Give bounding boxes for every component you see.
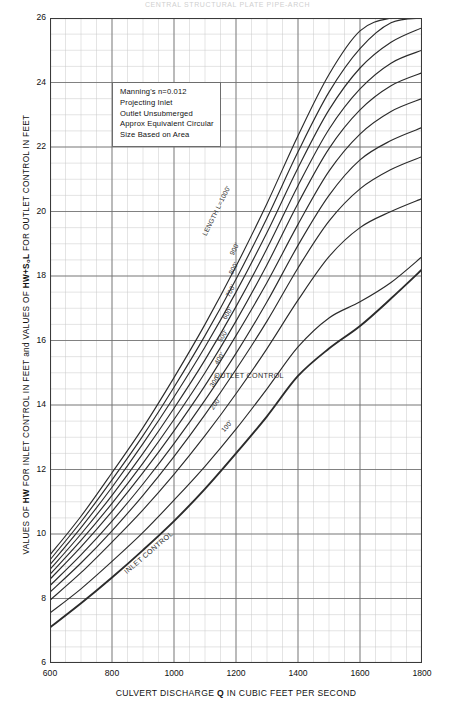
inlet-control-annotation: INLET CONTROL: [122, 529, 174, 576]
x-tick-label: 1400: [278, 669, 318, 678]
x-tick-label: 1800: [402, 669, 442, 678]
chart-canvas: CENTRAL STRUCTURAL PLATE PIPE-ARCH VALUE…: [0, 0, 455, 709]
x-tick-label: 800: [92, 669, 132, 678]
note-line: Projecting Inlet: [120, 98, 214, 109]
y-tick-label: 12: [22, 465, 46, 474]
plot-area: LENGTH L=1000'900'800'700'600'500'400'30…: [50, 18, 422, 663]
chart-notes-box: Manning's n=0.012Projecting InletOutlet …: [112, 82, 221, 147]
y-tick-label: 8: [22, 594, 46, 603]
chart-top-title: CENTRAL STRUCTURAL PLATE PIPE-ARCH: [0, 1, 455, 13]
y-tick-label: 18: [22, 271, 46, 280]
plot-svg: LENGTH L=1000'900'800'700'600'500'400'30…: [50, 18, 422, 663]
note-line: Outlet Unsubmerged: [120, 109, 214, 120]
control-annotations: OUTLET CONTROLINLET CONTROL: [122, 371, 284, 576]
x-tick-label: 1200: [216, 669, 256, 678]
y-tick-label: 20: [22, 207, 46, 216]
y-tick-label: 14: [22, 400, 46, 409]
x-tick-label: 1600: [340, 669, 380, 678]
y-tick-label: 16: [22, 336, 46, 345]
note-line: Size Based on Area: [120, 130, 214, 141]
y-tick-label: 22: [22, 142, 46, 151]
note-line: Manning's n=0.012: [120, 87, 214, 98]
x-tick-label: 600: [30, 669, 70, 678]
y-tick-label: 24: [22, 78, 46, 87]
y-axis-tick-labels: 68101214161820222426: [20, 0, 46, 709]
curve-label: 200': [208, 396, 221, 411]
x-axis-tick-labels: 60080010001200140016001800: [0, 669, 455, 683]
curve-label: LENGTH L=1000': [201, 184, 232, 236]
y-tick-label: 10: [22, 529, 46, 538]
curve-label: 400': [213, 351, 226, 366]
x-tick-label: 1000: [154, 669, 194, 678]
x-axis-title: CULVERT DISCHARGE Q IN CUBIC FEET PER SE…: [50, 688, 422, 698]
outlet-control-annotation: OUTLET CONTROL: [214, 371, 284, 380]
y-tick-label: 6: [22, 658, 46, 667]
y-tick-label: 26: [22, 13, 46, 22]
note-line: Approx Equivalent Circular: [120, 119, 214, 130]
